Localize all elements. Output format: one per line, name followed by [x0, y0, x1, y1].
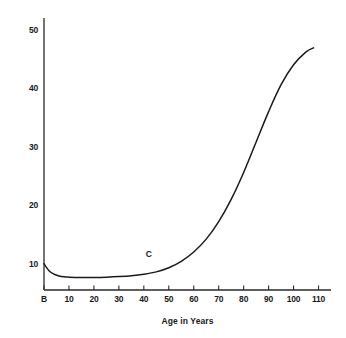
x-axis-tick-marks	[44, 286, 319, 291]
curve-label-c: C	[146, 249, 152, 259]
x-tick-label-100: 100	[287, 295, 301, 304]
x-tick-label-40: 40	[139, 295, 148, 304]
y-tick-label-30: 30	[16, 142, 38, 151]
curve-c-line	[44, 48, 314, 278]
x-tick-label-80: 80	[239, 295, 248, 304]
x-tick-label-90: 90	[264, 295, 273, 304]
x-tick-label-110: 110	[312, 295, 325, 304]
x-tick-label-B: B	[41, 295, 47, 304]
y-tick-label-20: 20	[16, 201, 38, 210]
x-axis-title: Age in Years	[161, 316, 213, 326]
x-tick-label-30: 30	[114, 295, 123, 304]
y-tick-label-10: 10	[16, 259, 38, 268]
axis-lines	[44, 18, 331, 290]
x-tick-label-50: 50	[164, 295, 173, 304]
x-tick-label-10: 10	[64, 295, 73, 304]
x-tick-label-20: 20	[89, 295, 98, 304]
x-tick-label-60: 60	[189, 295, 198, 304]
y-tick-label-40: 40	[16, 84, 38, 93]
x-tick-label-70: 70	[214, 295, 223, 304]
y-tick-label-50: 50	[16, 25, 38, 34]
mortality-curve-chart: 1020304050 B102030405060708090100110 C A…	[0, 0, 346, 338]
chart-plot-area	[0, 0, 346, 338]
